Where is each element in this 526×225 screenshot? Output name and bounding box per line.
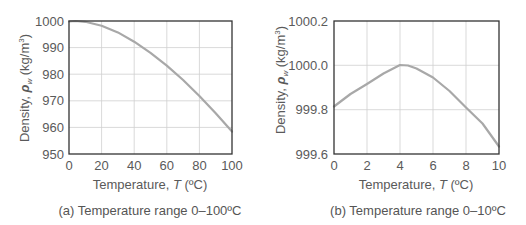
chart-a-x-axis-label: Temperature, T (ºC) — [93, 177, 208, 192]
chart-b-y-axis-label: Density, ρw (kg/m3) — [273, 26, 290, 134]
chart-a-ytick: 950 — [42, 147, 64, 162]
chart-b-x-axis-label: Temperature, T (ºC) — [359, 177, 474, 192]
chart-a-xtick: 20 — [94, 158, 108, 173]
chart-b-ytick: 1000.2 — [288, 14, 328, 29]
chart-b-y-ticks: 1000.2 1000.0 999.8 999.6 — [288, 14, 328, 162]
chart-b-density-curve — [334, 65, 499, 147]
chart-a-frame — [69, 21, 232, 154]
chart-a-ytick: 980 — [42, 67, 64, 82]
chart-a-xtick: 0 — [65, 158, 72, 173]
chart-a-y-ticks: 1000 990 980 970 960 950 — [35, 14, 64, 162]
chart-a-xtick: 40 — [127, 158, 141, 173]
chart-a-caption: (a) Temperature range 0–100ºC — [58, 203, 241, 218]
chart-a-ytick: 960 — [42, 120, 64, 135]
chart-b-xtick: 6 — [429, 158, 436, 173]
chart-a-x-ticks: 0 20 40 60 80 100 — [65, 158, 242, 173]
chart-b-ytick: 999.8 — [295, 102, 328, 117]
chart-b-xtick: 4 — [396, 158, 403, 173]
chart-a-ytick: 970 — [42, 93, 64, 108]
chart-b-xtick: 0 — [330, 158, 337, 173]
chart-a-ytick: 1000 — [35, 14, 64, 29]
chart-a-grid — [69, 21, 232, 154]
chart-b-frame — [334, 21, 499, 154]
chart-b-xtick: 10 — [492, 158, 506, 173]
chart-a: 1000 990 980 970 960 950 0 20 40 60 80 1… — [17, 14, 243, 219]
chart-b: 1000.2 1000.0 999.8 999.6 0 2 4 6 8 10 T… — [273, 14, 506, 219]
chart-a-xtick: 80 — [192, 158, 206, 173]
chart-b-ytick: 1000.0 — [288, 58, 328, 73]
chart-a-xtick: 100 — [221, 158, 243, 173]
chart-b-xtick: 2 — [363, 158, 370, 173]
chart-b-ytick: 999.6 — [295, 147, 328, 162]
chart-b-caption: (b) Temperature range 0–10ºC — [330, 203, 506, 218]
chart-a-y-axis-label: Density, ρw (kg/m3) — [17, 34, 34, 142]
chart-b-grid — [334, 21, 499, 154]
figure: 1000 990 980 970 960 950 0 20 40 60 80 1… — [0, 0, 526, 225]
chart-a-density-curve — [69, 21, 232, 132]
chart-b-xtick: 8 — [462, 158, 469, 173]
chart-a-ytick: 990 — [42, 40, 64, 55]
chart-a-xtick: 60 — [160, 158, 174, 173]
chart-b-x-ticks: 0 2 4 6 8 10 — [330, 158, 506, 173]
